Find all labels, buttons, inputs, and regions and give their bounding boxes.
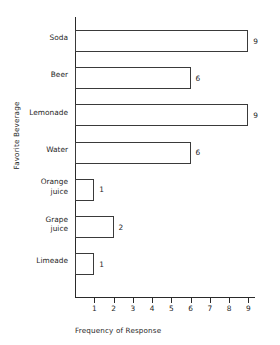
x-tick-label-8: 8 <box>219 304 239 313</box>
category-label-water: Water <box>0 145 68 154</box>
x-axis-title: Frequency of Response <box>75 326 280 335</box>
x-tick-label-2: 2 <box>104 304 124 313</box>
x-tick-label-1: 1 <box>84 304 104 313</box>
bar-value-label-6: 1 <box>99 260 104 269</box>
bar-value-label-1: 6 <box>196 74 201 83</box>
bar-value-label-0: 9 <box>253 37 258 46</box>
category-label-soda: Soda <box>0 33 68 42</box>
category-label-limeade: Limeade <box>0 256 68 265</box>
bar-grape-juice <box>75 216 114 238</box>
bar-value-label-5: 2 <box>119 223 124 232</box>
x-tick-label-6: 6 <box>181 304 201 313</box>
bar-chart: Favorite Beverage Frequency of Response … <box>0 0 280 345</box>
x-tick-3 <box>133 298 134 303</box>
x-tick-label-5: 5 <box>161 304 181 313</box>
x-tick-label-9: 9 <box>238 304 258 313</box>
y-axis-title: Favorite Beverage <box>12 81 21 191</box>
x-tick-6 <box>191 298 192 303</box>
x-tick-7 <box>210 298 211 303</box>
bar-value-label-4: 1 <box>99 185 104 194</box>
x-tick-9 <box>248 298 249 303</box>
x-tick-5 <box>171 298 172 303</box>
bar-lemonade <box>75 104 248 126</box>
bar-value-label-2: 9 <box>253 111 258 120</box>
x-tick-label-3: 3 <box>123 304 143 313</box>
x-tick-1 <box>94 298 95 303</box>
bar-soda <box>75 30 248 52</box>
x-tick-8 <box>229 298 230 303</box>
bar-orange-juice <box>75 179 94 201</box>
bar-water <box>75 142 191 164</box>
x-tick-label-4: 4 <box>142 304 162 313</box>
category-label-lemonade: Lemonade <box>0 108 68 117</box>
category-label-beer: Beer <box>0 70 68 79</box>
x-tick-2 <box>114 298 115 303</box>
x-tick-4 <box>152 298 153 303</box>
category-label-grape-juice: Grape juice <box>0 215 68 233</box>
bar-limeade <box>75 253 94 275</box>
category-label-orange-juice: Orange juice <box>0 177 68 195</box>
bar-value-label-3: 6 <box>196 148 201 157</box>
x-tick-label-7: 7 <box>200 304 220 313</box>
x-axis-line <box>75 297 255 298</box>
bar-beer <box>75 67 191 89</box>
